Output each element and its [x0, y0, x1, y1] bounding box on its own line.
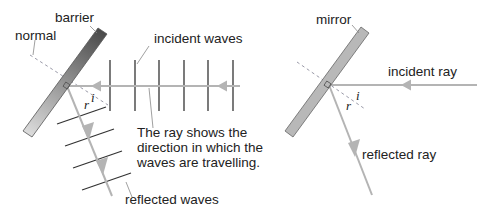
reflected-waves-label: reflected waves [125, 192, 219, 207]
left-panel-waves: barrier normal incident waves i r The ra… [15, 10, 263, 207]
right-panel-ray: mirror incident ray i r reflected ray [285, 12, 477, 195]
caption-leader [149, 88, 153, 128]
angle-r-label-right: r [346, 98, 352, 113]
incident-waves-leader [137, 46, 149, 64]
reflected-ray-label: reflected ray [362, 147, 437, 162]
caption-line-3: waves are travelling. [136, 155, 260, 170]
reflected-wavefronts [57, 107, 131, 190]
arrow-down-icon [348, 139, 360, 157]
caption-line-2: direction in which the [137, 140, 263, 155]
reflection-diagram: barrier normal incident waves i r The ra… [0, 0, 494, 222]
reflected-ray-left [67, 86, 112, 196]
mirror-leader [352, 25, 359, 33]
barrier-leader [90, 26, 97, 33]
angle-i-label: i [91, 90, 95, 105]
incident-ray-label: incident ray [388, 64, 457, 79]
arrow-left-icon [217, 81, 227, 92]
angle-i-label-right: i [356, 88, 360, 103]
angle-r-label: r [84, 97, 90, 112]
mirror-label: mirror [316, 12, 352, 27]
caption-line-1: The ray shows the [137, 125, 247, 140]
normal-label: normal [15, 28, 56, 43]
barrier-label: barrier [55, 10, 95, 25]
incident-waves-label: incident waves [154, 31, 243, 46]
arrow-left-icon [401, 80, 411, 91]
mirror [285, 27, 369, 137]
